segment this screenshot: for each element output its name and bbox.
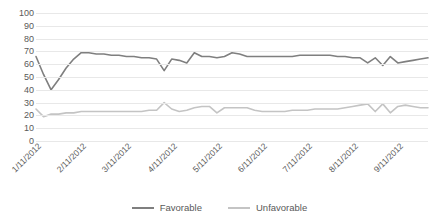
x-axis: 1/11/20122/11/20123/11/20124/11/20125/11… [0,141,439,197]
gridline [36,115,428,116]
legend-label: Unfavorable [256,203,307,213]
y-axis-tick-label: 60 [24,60,34,69]
legend-item[interactable]: Favorable [132,203,202,213]
series-line-favorable [36,53,428,90]
gridline [36,90,428,91]
gridline [36,128,428,129]
gridline [36,13,428,14]
gridline [36,64,428,65]
gridline [36,39,428,40]
gridline [36,51,428,52]
gridline [36,77,428,78]
y-axis-tick-label: 10 [24,124,34,133]
legend-label: Favorable [160,203,202,213]
legend-swatch-icon [132,207,154,210]
y-axis-tick-label: 50 [24,73,34,82]
legend-item[interactable]: Unfavorable [228,203,307,213]
y-axis-tick-label: 80 [24,34,34,43]
legend-swatch-icon [228,207,250,210]
y-axis-tick-label: 90 [24,21,34,30]
y-axis-tick-label: 100 [19,9,34,18]
chart-legend: FavorableUnfavorable [0,198,439,218]
y-axis-tick-label: 70 [24,47,34,56]
gridline [36,26,428,27]
y-axis-tick-label: 30 [24,98,34,107]
y-axis-tick-label: 20 [24,111,34,120]
y-axis-tick-label: 40 [24,85,34,94]
plot-area [36,13,428,141]
line-chart: 1009080706050403020100 1/11/20122/11/201… [0,0,439,221]
gridline [36,103,428,104]
